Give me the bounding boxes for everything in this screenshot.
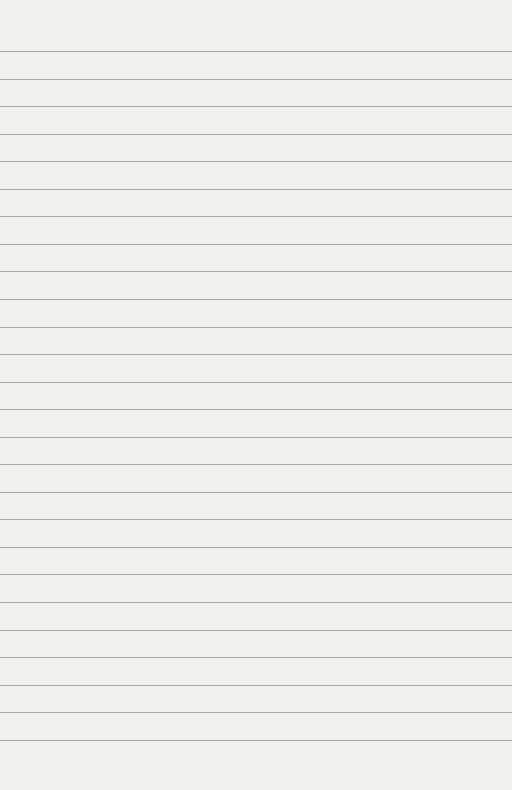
ruled-line xyxy=(0,740,512,741)
ruled-line xyxy=(0,685,512,686)
ruled-line xyxy=(0,602,512,603)
ruled-line xyxy=(0,327,512,328)
ruled-line xyxy=(0,244,512,245)
ruled-line xyxy=(0,409,512,410)
ruled-line xyxy=(0,271,512,272)
ruled-line xyxy=(0,437,512,438)
ruled-line xyxy=(0,189,512,190)
ruled-line xyxy=(0,299,512,300)
ruled-line xyxy=(0,106,512,107)
ruled-line xyxy=(0,161,512,162)
ruled-line xyxy=(0,519,512,520)
ruled-line xyxy=(0,574,512,575)
ruled-line xyxy=(0,134,512,135)
ruled-line xyxy=(0,657,512,658)
ruled-line xyxy=(0,492,512,493)
ruled-line xyxy=(0,382,512,383)
ruled-line xyxy=(0,51,512,52)
ruled-line xyxy=(0,79,512,80)
lined-paper xyxy=(0,0,512,790)
ruled-line xyxy=(0,354,512,355)
ruled-line xyxy=(0,464,512,465)
ruled-line xyxy=(0,216,512,217)
ruled-line xyxy=(0,630,512,631)
ruled-line xyxy=(0,547,512,548)
ruled-line xyxy=(0,712,512,713)
